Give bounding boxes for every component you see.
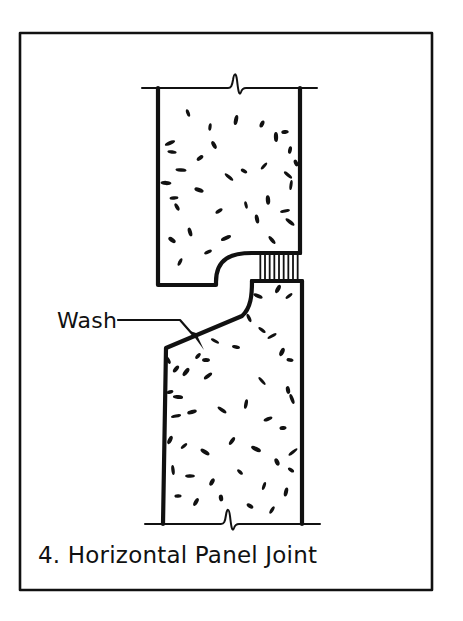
detail-caption: 4. Horizontal Panel Joint xyxy=(38,542,317,568)
detail-sheet: Wash 4. Horizontal Panel Joint xyxy=(0,0,463,621)
wash-label: Wash xyxy=(57,308,117,333)
architectural-detail-drawing: Wash 4. Horizontal Panel Joint xyxy=(0,0,463,621)
